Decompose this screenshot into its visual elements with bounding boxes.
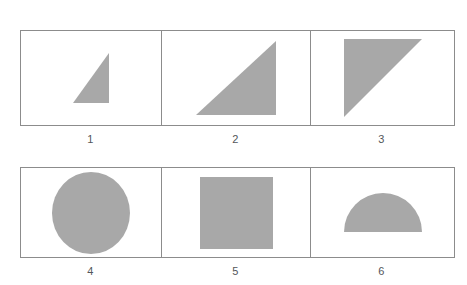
shape-label-1: 1 (20, 129, 161, 149)
right-triangle-large-icon (196, 41, 276, 115)
shape-cell-6[interactable] (311, 168, 454, 257)
shape-cell-1[interactable] (21, 31, 162, 125)
shape-label-5: 5 (161, 261, 310, 281)
semicircle-icon (344, 193, 422, 232)
shape-cell-3[interactable] (311, 31, 454, 125)
shape-worksheet: 1 2 3 4 5 6 (0, 0, 467, 285)
shape-cell-4[interactable] (21, 168, 162, 257)
shape-label-6: 6 (310, 261, 453, 281)
shape-label-row-1: 1 2 3 (20, 129, 455, 149)
right-triangle-small-icon (73, 53, 109, 103)
circle-icon (52, 172, 130, 254)
shape-cell-5[interactable] (162, 168, 311, 257)
shape-label-4: 4 (20, 261, 161, 281)
shape-label-2: 2 (161, 129, 310, 149)
square-icon (200, 177, 273, 249)
right-triangle-flipped-icon (344, 39, 422, 117)
shape-row-1 (20, 30, 455, 126)
shape-row-2 (20, 167, 455, 258)
shape-cell-2[interactable] (162, 31, 311, 125)
shape-label-3: 3 (310, 129, 453, 149)
shape-label-row-2: 4 5 6 (20, 261, 455, 281)
